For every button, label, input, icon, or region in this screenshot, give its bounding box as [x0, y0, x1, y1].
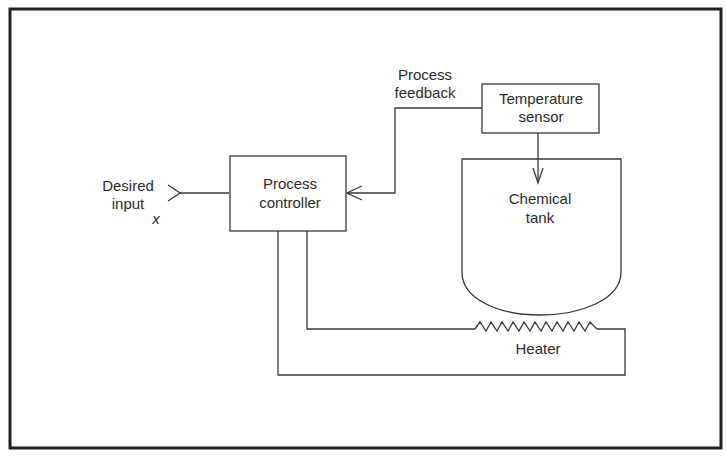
- process-control-diagram: Desired input x Process controller Tempe…: [0, 0, 726, 459]
- desired-input: Desired input x: [102, 177, 229, 227]
- input-connector-chevron-icon: [168, 185, 180, 201]
- temperature-sensor-block: Temperature sensor: [482, 84, 599, 133]
- process-feedback-label-line2: feedback: [395, 84, 456, 101]
- temperature-sensor-label-line2: sensor: [518, 108, 563, 125]
- sensor-to-tank-arrow: [533, 133, 543, 183]
- figure-frame: [10, 9, 721, 448]
- chemical-tank-vessel: [462, 159, 621, 315]
- heater-return-wire: [278, 231, 625, 375]
- process-controller-label-line1: Process: [263, 175, 317, 192]
- process-feedback-label-line1: Process: [398, 66, 452, 83]
- heater-label: Heater: [515, 340, 560, 357]
- process-controller-label-line2: controller: [259, 194, 321, 211]
- heater-circuit: Heater: [278, 231, 625, 375]
- input-variable-x: x: [151, 210, 160, 227]
- heater-coil-icon: [475, 322, 597, 331]
- desired-input-label-line2: input: [112, 195, 145, 212]
- controller-to-heater-wire: [307, 231, 475, 329]
- temperature-sensor-label-line1: Temperature: [499, 90, 583, 107]
- desired-input-label-line1: Desired: [102, 177, 154, 194]
- chemical-tank-label-line2: tank: [526, 209, 555, 226]
- chemical-tank-block: Chemical tank: [462, 159, 621, 315]
- process-controller-block: Process controller: [230, 156, 346, 231]
- chemical-tank-label-line1: Chemical: [509, 190, 572, 207]
